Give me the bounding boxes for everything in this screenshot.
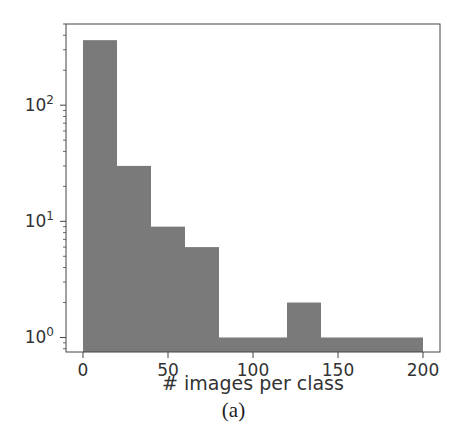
y-tick-label: 101	[25, 209, 54, 231]
histogram-bar	[287, 303, 321, 352]
histogram-bar	[117, 166, 151, 352]
histogram-bar	[151, 227, 185, 352]
y-tick-label: 102	[25, 93, 54, 115]
figure-caption: (a)	[0, 398, 467, 423]
y-axis: 100101102	[25, 24, 66, 349]
x-axis-label: # images per class	[162, 372, 344, 394]
histogram-bars	[83, 40, 423, 352]
x-tick-label: 200	[407, 360, 439, 380]
y-tick-label: 100	[25, 325, 54, 347]
histogram-bar	[389, 337, 423, 352]
x-tick-label: 0	[78, 360, 89, 380]
histogram-bar	[185, 247, 219, 352]
histogram-bar	[253, 337, 287, 352]
histogram-bar	[219, 337, 253, 352]
histogram-bar	[83, 40, 117, 352]
histogram-chart: 100101102 050100150200 # images per clas…	[0, 0, 467, 400]
histogram-bar	[355, 337, 389, 352]
histogram-bar	[321, 337, 355, 352]
